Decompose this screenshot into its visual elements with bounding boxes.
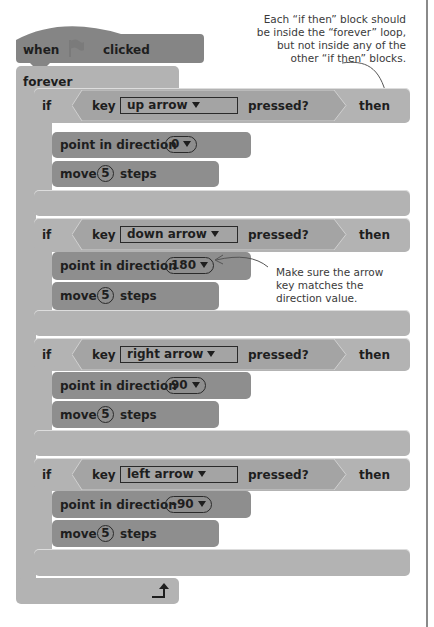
green-flag-icon	[67, 38, 85, 58]
direction-value: 0	[171, 137, 179, 151]
move-steps-block[interactable]: move 5 steps	[52, 401, 219, 428]
dropdown-triangle-icon	[192, 382, 200, 388]
if-header: if key up arrow pressed? then	[34, 88, 410, 123]
forever-label: forever	[23, 75, 72, 89]
key-dropdown[interactable]: left arrow	[120, 466, 238, 483]
annotation-line: direction value.	[276, 292, 406, 305]
key-label: key	[92, 468, 116, 482]
then-label: then	[359, 228, 390, 242]
move-label: move	[60, 167, 97, 181]
key-label: key	[92, 348, 116, 362]
key-label: key	[92, 99, 116, 113]
dropdown-triangle-icon	[200, 262, 208, 268]
direction-input[interactable]: –90	[165, 496, 212, 513]
loop-arrow-icon	[150, 582, 172, 600]
then-label: then	[359, 99, 390, 113]
key-dropdown[interactable]: down arrow	[120, 226, 238, 243]
point-label: point in direction	[60, 138, 177, 152]
move-label: move	[60, 408, 97, 422]
steps-label: steps	[120, 289, 157, 303]
annotation-line: Each “if then” block should	[238, 13, 406, 26]
steps-label: steps	[120, 408, 157, 422]
dropdown-triangle-icon	[183, 141, 191, 147]
point-label: point in direction	[60, 498, 177, 512]
key-dropdown[interactable]: up arrow	[120, 97, 238, 114]
annotation-line: Make sure the arrow	[276, 266, 406, 279]
if-label: if	[42, 228, 51, 242]
annotation-line: key matches the	[276, 279, 406, 292]
direction-value: 180	[171, 258, 196, 272]
direction-input[interactable]: 90	[165, 377, 206, 394]
forever-bottom	[16, 578, 179, 604]
annotation-arrow-icon	[210, 250, 270, 270]
annotation-line: be inside the “forever” loop,	[238, 26, 406, 39]
steps-label: steps	[120, 527, 157, 541]
point-label: point in direction	[60, 259, 177, 273]
if-label: if	[42, 99, 51, 113]
dropdown-triangle-icon	[198, 471, 206, 477]
forever-arm	[16, 90, 36, 590]
then-label: then	[359, 468, 390, 482]
annotation-direction-match: Make sure the arrow key matches the dire…	[276, 266, 406, 305]
page-border-line	[426, 0, 428, 627]
if-label: if	[42, 468, 51, 482]
if-bottom	[34, 190, 410, 216]
steps-input[interactable]: 5	[97, 525, 114, 542]
annotation-line: but not inside any of the	[238, 39, 406, 52]
pressed-label: pressed?	[248, 99, 309, 113]
when-label: when	[23, 43, 59, 57]
key-option: right arrow	[127, 347, 203, 361]
move-steps-block[interactable]: move 5 steps	[52, 161, 219, 187]
move-label: move	[60, 527, 97, 541]
then-label: then	[359, 348, 390, 362]
dropdown-triangle-icon	[192, 102, 200, 108]
if-header: if key left arrow pressed? then	[34, 458, 410, 491]
hat-labels: when clicked	[16, 34, 204, 64]
if-bottom	[34, 430, 410, 456]
direction-value: –90	[171, 497, 194, 511]
key-dropdown[interactable]: right arrow	[120, 346, 238, 363]
steps-label: steps	[120, 167, 157, 181]
pressed-label: pressed?	[248, 348, 309, 362]
move-steps-block[interactable]: move 5 steps	[52, 282, 219, 310]
if-arm	[34, 118, 52, 198]
point-in-direction-block[interactable]: point in direction 90	[52, 372, 251, 399]
key-option: up arrow	[127, 98, 188, 112]
move-label: move	[60, 289, 97, 303]
move-steps-block[interactable]: move 5 steps	[52, 520, 219, 547]
direction-input[interactable]: 0	[165, 136, 197, 153]
point-in-direction-block[interactable]: point in direction –90	[52, 491, 251, 518]
key-label: key	[92, 228, 116, 242]
if-label: if	[42, 348, 51, 362]
steps-input[interactable]: 5	[97, 406, 114, 423]
if-bottom	[34, 310, 410, 336]
direction-value: 90	[171, 378, 188, 392]
steps-input[interactable]: 5	[97, 287, 114, 304]
steps-input[interactable]: 5	[97, 165, 114, 182]
point-in-direction-block[interactable]: point in direction 0	[52, 132, 251, 158]
direction-input[interactable]: 180	[165, 257, 214, 274]
key-option: down arrow	[127, 227, 207, 241]
pressed-label: pressed?	[248, 228, 309, 242]
annotation-if-then-placement: Each “if then” block should be inside th…	[238, 13, 406, 65]
key-option: left arrow	[127, 467, 194, 481]
dropdown-triangle-icon	[198, 501, 206, 507]
point-label: point in direction	[60, 379, 177, 393]
pressed-label: pressed?	[248, 468, 309, 482]
dropdown-triangle-icon	[207, 351, 215, 357]
clicked-label: clicked	[103, 43, 150, 57]
dropdown-triangle-icon	[211, 231, 219, 237]
if-header: if key down arrow pressed? then	[34, 218, 410, 252]
if-bottom	[34, 549, 410, 576]
if-header: if key right arrow pressed? then	[34, 338, 410, 371]
